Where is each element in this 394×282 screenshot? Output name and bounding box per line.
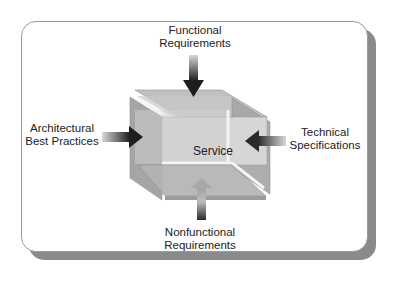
label-line: Functional [150, 24, 240, 37]
architectural-best-practices-label: Architectural Best Practices [22, 122, 102, 148]
label-line: Requirements [150, 239, 250, 252]
label-line: Best Practices [22, 135, 102, 148]
label-line: Technical [285, 126, 365, 139]
technical-specifications-label: Technical Specifications [285, 126, 365, 152]
label-line: Nonfunctional [150, 226, 250, 239]
nonfunctional-requirements-label: Nonfunctional Requirements [150, 226, 250, 252]
service-label: Service [188, 145, 238, 158]
label-line: Architectural [22, 122, 102, 135]
label-line: Specifications [285, 139, 365, 152]
functional-requirements-label: Functional Requirements [150, 24, 240, 50]
label-line: Requirements [150, 37, 240, 50]
